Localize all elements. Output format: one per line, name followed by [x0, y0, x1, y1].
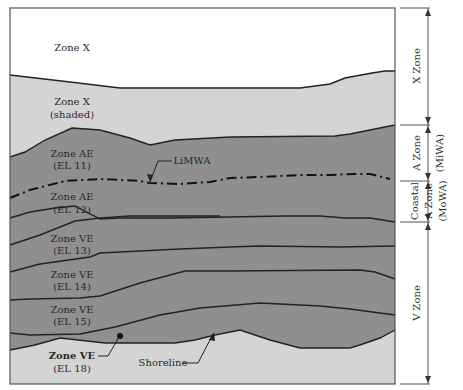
flood-zone-diagram: Zone X Zone X (shaded) Zone AE (EL 11) Z… — [0, 0, 463, 390]
zone-ve-15-label: Zone VE — [50, 304, 93, 315]
shoreline-label: Shoreline — [139, 357, 188, 368]
zone-x-label: Zone X — [54, 42, 91, 53]
zone-x-shaded-label: Zone X — [54, 96, 91, 107]
zone-ve-13-sublabel: (EL 13) — [53, 245, 91, 256]
zone-ae-11-label: Zone AE — [50, 148, 93, 159]
a-zone-miwa-bracket-sublabel: (MiWA) — [434, 134, 445, 172]
zone-ve-15-sublabel: (EL 15) — [53, 316, 91, 327]
zone-ve-18-label: Zone VE — [49, 350, 96, 361]
limwa-label: LiMWA — [173, 155, 211, 166]
coastal-a-zone-bracket-sublabel: (MoWA) — [437, 180, 448, 221]
a-zone-miwa-bracket-label: A Zone — [411, 135, 422, 172]
zone-x-shaded-sublabel: (shaded) — [50, 109, 94, 120]
zone-ae-11-sublabel: (EL 11) — [53, 160, 91, 171]
zone-ae-12-label: Zone AE — [50, 191, 93, 202]
coastal-a-zone-bracket-label: Coastal — [409, 182, 420, 220]
zone-ve-14-label: Zone VE — [50, 269, 93, 280]
coastal-a-zone-bracket-label-2: A Zone — [423, 183, 434, 220]
v-zone-bracket-label: V Zone — [411, 285, 422, 322]
zone-ae-12-sublabel: (EL 12) — [53, 204, 91, 215]
zone-ve-13-label: Zone VE — [50, 233, 93, 244]
x-zone-bracket-label: X Zone — [411, 48, 422, 84]
zone-ve-18-sublabel: (EL 18) — [53, 363, 91, 374]
zone-ve-14-sublabel: (EL 14) — [53, 281, 91, 292]
